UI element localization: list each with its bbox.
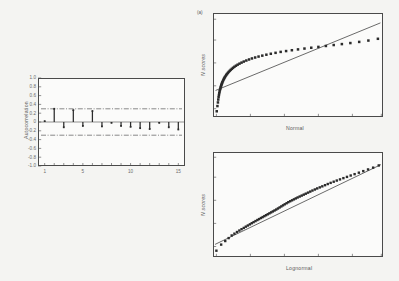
acf-y-tick-label: 0.6	[27, 93, 36, 98]
acf-x-tick-label: 5	[80, 169, 86, 174]
acf-y-tick-label: 0.4	[27, 102, 36, 107]
acf-y-tick-label: -0.4	[27, 137, 36, 142]
lognormal-plot-graphics	[195, 140, 399, 281]
acf-y-tick-label: -0.8	[27, 155, 36, 160]
acf-y-tick-label: -1.0	[27, 163, 36, 168]
acf-y-tick-label: 0.2	[27, 111, 36, 116]
autocorrelation-panel: Autocorrelation -1.0-0.8-0.6-0.4-0.200.2…	[0, 0, 200, 281]
acf-y-tick-label: -0.2	[27, 128, 36, 133]
figure-canvas: Autocorrelation -1.0-0.8-0.6-0.4-0.200.2…	[0, 0, 399, 281]
acf-y-tick-label: 1.0	[27, 75, 36, 80]
acf-y-tick-label: 0	[27, 119, 36, 124]
acf-x-tick-label: 10	[128, 169, 134, 174]
normal-probability-panel: (a) N scores Normal	[195, 0, 399, 140]
acf-x-tick-label: 15	[175, 169, 181, 174]
acf-x-tick-label: 1	[42, 169, 48, 174]
acf-y-tick-label: 0.8	[27, 84, 36, 89]
acf-y-tick-label: -0.6	[27, 146, 36, 151]
normal-plot-graphics	[195, 0, 399, 140]
lognormal-probability-panel: N scores Lognormal	[195, 140, 399, 281]
